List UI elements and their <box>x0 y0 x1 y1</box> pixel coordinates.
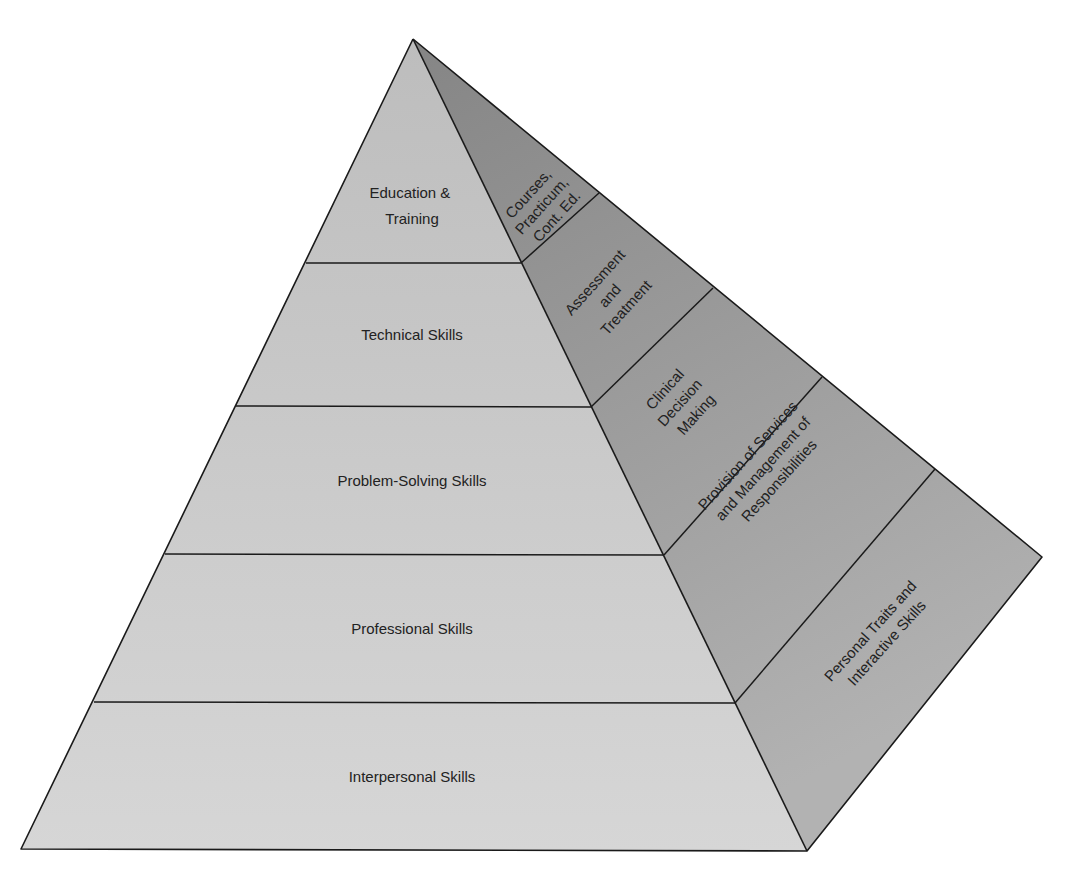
skills-pyramid-diagram: Education & Training Technical Skills Pr… <box>0 0 1067 878</box>
front-divider-4 <box>94 702 735 703</box>
front-layer-interpersonal-skills: Interpersonal Skills <box>349 768 476 785</box>
front-divider-3 <box>165 554 664 555</box>
front-layer-problem-solving-skills: Problem-Solving Skills <box>337 472 486 489</box>
front-divider-2 <box>236 406 591 407</box>
front-layer-professional-skills: Professional Skills <box>351 620 473 637</box>
front-layer-technical-skills: Technical Skills <box>361 326 463 343</box>
